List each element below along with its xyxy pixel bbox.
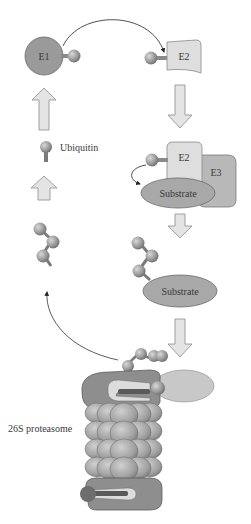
down-arrow-icon [168, 214, 192, 238]
ubiquitin-icon [40, 141, 52, 153]
svg-text:E2: E2 [178, 51, 189, 62]
polyubiquitin-chain [34, 223, 60, 267]
e1-enzyme: E1 [25, 37, 81, 75]
transfer-arrow [63, 20, 164, 52]
ubiquitin-icon [145, 52, 158, 65]
down-arrow-icon [168, 319, 192, 357]
recycle-arrow [47, 292, 118, 360]
e2-enzyme: E2 [145, 40, 202, 73]
svg-text:E1: E1 [38, 51, 49, 62]
svg-text:Ubiquitin: Ubiquitin [60, 142, 98, 153]
proteasome-core [85, 403, 162, 481]
up-arrow-icon [31, 176, 57, 200]
svg-text:Substrate: Substrate [159, 188, 197, 199]
svg-text:E2: E2 [178, 152, 189, 163]
ubiquitin-icon [146, 154, 159, 167]
ubiquitinated-substrate: Substrate [132, 237, 218, 308]
e2-e3-substrate-complex: E3 E2 Substrate [132, 142, 236, 208]
ubiquitin-legend: Ubiquitin [40, 141, 98, 162]
svg-text:E3: E3 [210, 167, 221, 178]
proteasome-label: 26S proteasome [8, 423, 73, 434]
proteasome [80, 348, 214, 510]
down-arrow-icon [168, 85, 192, 128]
svg-text:Substrate: Substrate [161, 286, 199, 297]
ubiquitin-icon [68, 50, 81, 63]
ubiquitin-pathway-diagram: E1 E2 Ubiquitin E3 E2 Substrate [0, 0, 251, 524]
up-arrow-icon [32, 88, 56, 130]
